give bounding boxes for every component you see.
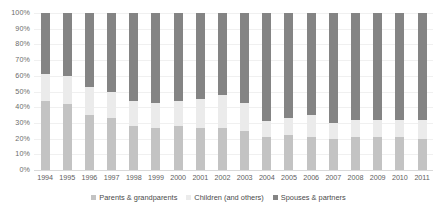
bar-segment[interactable]	[85, 115, 94, 170]
bar-segment[interactable]	[107, 118, 116, 170]
legend-item[interactable]: Children (and others)	[186, 193, 263, 202]
bar-segment[interactable]	[196, 99, 205, 127]
bar-segment[interactable]	[307, 13, 316, 115]
bar-segment[interactable]	[240, 103, 249, 131]
bar-segment[interactable]	[373, 13, 382, 120]
bar-segment[interactable]	[351, 120, 360, 137]
bar-column[interactable]	[256, 13, 278, 170]
bar-column[interactable]	[145, 13, 167, 170]
y-axis-tick-10: 10%	[15, 150, 30, 158]
bar-segment[interactable]	[373, 120, 382, 137]
bar-segment[interactable]	[329, 13, 338, 123]
stacked-bar[interactable]	[262, 13, 271, 170]
bar-segment[interactable]	[151, 103, 160, 128]
bar-segment[interactable]	[41, 13, 50, 74]
bar-column[interactable]	[56, 13, 78, 170]
bar-column[interactable]	[211, 13, 233, 170]
x-axis-tick-1996: 1996	[78, 172, 100, 186]
bar-segment[interactable]	[262, 121, 271, 137]
stacked-bar[interactable]	[240, 13, 249, 170]
bar-segment[interactable]	[129, 126, 138, 170]
stacked-bar[interactable]	[85, 13, 94, 170]
stacked-bar[interactable]	[351, 13, 360, 170]
bar-segment[interactable]	[85, 13, 94, 87]
stacked-bar[interactable]	[196, 13, 205, 170]
stacked-bar[interactable]	[307, 13, 316, 170]
x-axis-tick-2005: 2005	[278, 172, 300, 186]
stacked-bar[interactable]	[218, 13, 227, 170]
bar-segment[interactable]	[174, 126, 183, 170]
bar-segment[interactable]	[218, 13, 227, 95]
bar-column[interactable]	[389, 13, 411, 170]
bar-segment[interactable]	[85, 87, 94, 115]
bar-segment[interactable]	[284, 135, 293, 170]
bar-segment[interactable]	[151, 13, 160, 102]
bar-segment[interactable]	[240, 131, 249, 170]
bar-column[interactable]	[34, 13, 56, 170]
bar-column[interactable]	[189, 13, 211, 170]
bar-segment[interactable]	[307, 115, 316, 137]
bar-segment[interactable]	[351, 13, 360, 120]
bar-segment[interactable]	[174, 13, 183, 101]
bar-segment[interactable]	[240, 13, 249, 102]
bar-column[interactable]	[234, 13, 256, 170]
bar-segment[interactable]	[284, 118, 293, 135]
stacked-bar[interactable]	[418, 13, 427, 170]
bar-segment[interactable]	[395, 137, 404, 170]
stacked-bar[interactable]	[329, 13, 338, 170]
bar-column[interactable]	[300, 13, 322, 170]
bar-segment[interactable]	[63, 104, 72, 170]
bar-segment[interactable]	[218, 128, 227, 170]
legend-item[interactable]: Parents & grandparents	[91, 193, 177, 202]
bar-segment[interactable]	[284, 13, 293, 118]
bar-segment[interactable]	[107, 92, 116, 119]
legend-label: Children (and others)	[194, 193, 263, 202]
bar-segment[interactable]	[307, 137, 316, 170]
x-axis-tick-1999: 1999	[145, 172, 167, 186]
bar-segment[interactable]	[329, 139, 338, 170]
bar-segment[interactable]	[63, 76, 72, 104]
bar-segment[interactable]	[418, 139, 427, 170]
bar-segment[interactable]	[418, 120, 427, 139]
bar-column[interactable]	[123, 13, 145, 170]
bar-segment[interactable]	[262, 13, 271, 121]
bar-column[interactable]	[101, 13, 123, 170]
stacked-bar[interactable]	[373, 13, 382, 170]
bar-segment[interactable]	[329, 123, 338, 139]
stacked-bar[interactable]	[63, 13, 72, 170]
stacked-bar[interactable]	[107, 13, 116, 170]
legend-item[interactable]: Spouses & partners	[273, 193, 346, 202]
bar-segment[interactable]	[41, 74, 50, 101]
bar-segment[interactable]	[174, 101, 183, 126]
stacked-bar[interactable]	[395, 13, 404, 170]
bar-column[interactable]	[167, 13, 189, 170]
bar-segment[interactable]	[129, 101, 138, 126]
bar-segment[interactable]	[63, 13, 72, 76]
bar-segment[interactable]	[395, 120, 404, 137]
bar-segment[interactable]	[418, 13, 427, 120]
bar-segment[interactable]	[107, 13, 116, 92]
bar-column[interactable]	[344, 13, 366, 170]
bar-segment[interactable]	[395, 13, 404, 120]
bar-segment[interactable]	[373, 137, 382, 170]
x-axis-tick-1994: 1994	[34, 172, 56, 186]
stacked-bar[interactable]	[151, 13, 160, 170]
bar-column[interactable]	[78, 13, 100, 170]
stacked-bar[interactable]	[41, 13, 50, 170]
bar-column[interactable]	[411, 13, 433, 170]
stacked-bar[interactable]	[174, 13, 183, 170]
y-axis-tick-40: 40%	[15, 103, 30, 111]
bar-column[interactable]	[367, 13, 389, 170]
bar-column[interactable]	[322, 13, 344, 170]
bar-segment[interactable]	[196, 13, 205, 99]
bar-segment[interactable]	[41, 101, 50, 170]
stacked-bar[interactable]	[284, 13, 293, 170]
bar-segment[interactable]	[351, 137, 360, 170]
stacked-bar[interactable]	[129, 13, 138, 170]
bar-segment[interactable]	[129, 13, 138, 101]
bar-segment[interactable]	[196, 128, 205, 170]
bar-segment[interactable]	[262, 137, 271, 170]
bar-column[interactable]	[278, 13, 300, 170]
bar-segment[interactable]	[151, 128, 160, 170]
bar-segment[interactable]	[218, 95, 227, 128]
